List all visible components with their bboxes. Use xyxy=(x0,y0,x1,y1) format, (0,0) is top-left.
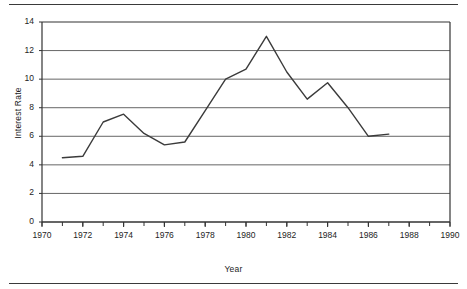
y-tick-label: 14 xyxy=(12,16,34,26)
y-tick-label: 10 xyxy=(12,73,34,83)
y-axis-title: Interest Rate xyxy=(13,73,23,153)
y-tick-label: 6 xyxy=(12,130,34,140)
line-chart-plot xyxy=(0,0,467,289)
x-tick-label: 1986 xyxy=(348,230,388,240)
y-tick-label: 8 xyxy=(12,102,34,112)
x-tick-label: 1984 xyxy=(308,230,348,240)
y-tick-label: 0 xyxy=(12,216,34,226)
x-tick-label: 1970 xyxy=(22,230,62,240)
x-tick-label: 1978 xyxy=(185,230,225,240)
x-tick-label: 1976 xyxy=(144,230,184,240)
x-tick-label: 1974 xyxy=(104,230,144,240)
y-tick-label: 4 xyxy=(12,159,34,169)
y-tick-label: 2 xyxy=(12,187,34,197)
y-tick-label: 12 xyxy=(12,45,34,55)
x-tick-label: 1988 xyxy=(389,230,429,240)
x-tick-label: 1990 xyxy=(430,230,467,240)
x-axis-title: Year xyxy=(0,264,467,274)
chart-figure: Interest Rate Year 02468101214 197019721… xyxy=(0,0,467,289)
x-tick-label: 1982 xyxy=(267,230,307,240)
x-tick-label: 1980 xyxy=(226,230,266,240)
x-tick-label: 1972 xyxy=(63,230,103,240)
interest-rate-series-line xyxy=(62,36,388,157)
